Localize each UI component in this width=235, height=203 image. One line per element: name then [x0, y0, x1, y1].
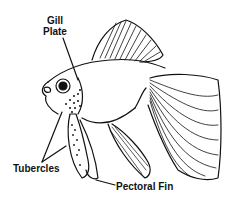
gill-plate-label-line1: Gill: [43, 15, 67, 26]
pectoral-fin-pointer: [96, 180, 115, 185]
gill-plate-label: Gill Plate: [43, 15, 67, 37]
fish-body-outline: [48, 59, 165, 82]
pelvic-fin: [108, 124, 150, 178]
tubercles-label: Tubercles: [13, 163, 60, 174]
tubercle-dots: [65, 89, 81, 113]
pectoral-fin-label: Pectoral Fin: [116, 181, 173, 192]
gill-plate-label-line2: Plate: [43, 26, 67, 37]
tail-fin: [148, 74, 221, 179]
tubercles-pointer-1: [42, 112, 62, 162]
gill-plate: [78, 78, 83, 114]
pectoral-fin-left: [68, 114, 89, 178]
gill-plate-pointer: [63, 38, 78, 80]
fish-diagram: Gill Plate Tubercles Pectoral Fin: [0, 0, 235, 203]
